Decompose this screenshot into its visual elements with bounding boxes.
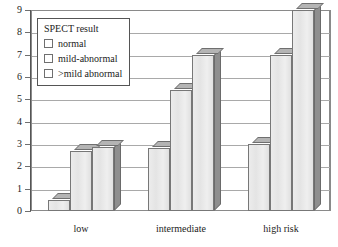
x-category-label-intermediate: intermediate: [156, 223, 206, 234]
bar-front-face: [48, 200, 70, 211]
bar-side-face: [114, 140, 121, 211]
y-tick-label-9: 9: [17, 5, 22, 15]
bar-front-face: [270, 55, 292, 211]
legend-swatch-mild-abnormal: [44, 54, 53, 63]
bar-low--mild-abnormal: [92, 147, 114, 211]
bar-chart: 0123456789 SPECT result normal mild-abno…: [0, 0, 338, 247]
legend-item-mild-abnormal: mild-abnormal: [44, 52, 122, 65]
y-tick-mark-0: [25, 211, 31, 212]
x-category-label-high-risk: high risk: [263, 223, 298, 234]
plot-right-wall: [329, 11, 330, 210]
bar-front-face: [170, 90, 192, 211]
x-category-label-low: low: [74, 223, 89, 234]
y-tick-label-6: 6: [17, 72, 22, 82]
legend-item-greater-mild-abnormal: >mild abnormal: [44, 67, 122, 80]
bar-side-face: [314, 3, 321, 211]
y-tick-label-1: 1: [17, 184, 22, 194]
y-tick-label-8: 8: [17, 27, 22, 37]
y-tick-label-2: 2: [17, 161, 22, 171]
bar-front-face: [70, 151, 92, 211]
legend-label-greater-mild-abnormal: >mild abnormal: [58, 67, 122, 80]
legend-item-normal: normal: [44, 37, 122, 50]
bar-front-face: [92, 147, 114, 211]
legend-title: SPECT result: [44, 23, 122, 35]
y-tick-label-5: 5: [17, 94, 22, 104]
legend-swatch-normal: [44, 39, 53, 48]
legend-swatch-greater-mild-abnormal: [44, 69, 53, 78]
bar-intermediate-mild-abnormal: [170, 90, 192, 211]
legend: SPECT result normal mild-abnormal >mild …: [37, 18, 130, 86]
bar-side-face: [214, 48, 221, 211]
bar-low-normal: [48, 200, 70, 211]
bar-high-risk-normal: [248, 144, 270, 211]
legend-label-mild-abnormal: mild-abnormal: [58, 52, 117, 65]
legend-label-normal: normal: [58, 37, 86, 50]
y-tick-label-3: 3: [17, 139, 22, 149]
y-tick-label-7: 7: [17, 50, 22, 60]
y-axis: 0123456789: [0, 0, 31, 247]
bar-front-face: [292, 10, 314, 211]
y-tick-label-4: 4: [17, 117, 22, 127]
bar-intermediate-normal: [148, 148, 170, 211]
bar-front-face: [248, 144, 270, 211]
bar-front-face: [192, 55, 214, 211]
bar-low-mild-abnormal: [70, 151, 92, 211]
bar-high-risk-mild-abnormal: [270, 55, 292, 211]
bar-intermediate--mild-abnormal: [192, 55, 214, 211]
bar-front-face: [148, 148, 170, 211]
bar-high-risk--mild-abnormal: [292, 10, 314, 211]
y-tick-label-0: 0: [17, 206, 22, 216]
